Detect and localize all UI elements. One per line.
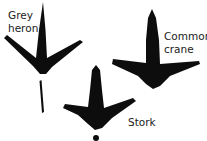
- grey-heron-label-line2: heron: [8, 22, 38, 35]
- stork-label-line1: Stork: [128, 116, 156, 129]
- common-crane-label-line2: crane: [164, 43, 207, 56]
- common-crane-label: Common crane: [164, 30, 207, 56]
- stork-footprint: [63, 65, 136, 141]
- common-crane-label-line1: Common: [164, 30, 207, 43]
- stork-label: Stork: [128, 116, 156, 129]
- grey-heron-label-line1: Grey: [8, 9, 38, 22]
- grey-heron-label: Grey heron: [8, 9, 38, 35]
